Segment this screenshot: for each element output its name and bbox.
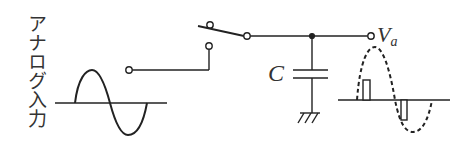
switch-pivot-icon (244, 33, 250, 39)
sampled-output-waveform (338, 47, 450, 132)
ground-icon (298, 113, 320, 123)
input-terminal-icon (126, 67, 132, 73)
switch-lower-contact-icon (206, 43, 212, 49)
output-label-subscript: a (390, 34, 397, 49)
capacitor-label: C (268, 60, 284, 87)
negative-pulse-icon (401, 100, 407, 120)
capacitor-icon (293, 36, 328, 113)
circuit-diagram (0, 0, 475, 146)
switch-lever-icon (198, 26, 244, 36)
output-voltage-label: Va (377, 22, 397, 50)
input-waveform (55, 70, 167, 135)
output-label-main: V (377, 22, 390, 47)
output-terminal-icon (368, 33, 374, 39)
positive-pulse-icon (363, 80, 370, 100)
